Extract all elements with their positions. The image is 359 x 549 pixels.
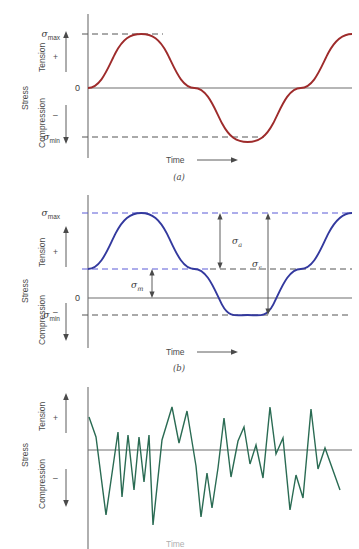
axis-label-tension-c: Tension bbox=[37, 401, 47, 431]
panel-b-repeated-stress-cycle: Stress Tension Compression + – σmax σmin… bbox=[0, 185, 359, 375]
svg-text:σmax: σmax bbox=[42, 208, 61, 220]
panel-b-svg: Stress Tension Compression + – σmax σmin… bbox=[0, 185, 359, 375]
tension-arrow-up-icon-b bbox=[63, 226, 69, 267]
tension-arrow-up-icon-c bbox=[63, 393, 69, 433]
time-arrow-icon-b bbox=[197, 349, 238, 355]
tension-arrow-up-icon-a bbox=[63, 31, 69, 72]
axis-label-stress-b: Stress bbox=[20, 279, 30, 303]
stress-curve-c bbox=[89, 407, 340, 525]
sign-minus-c: – bbox=[53, 473, 58, 483]
svg-text:σa: σa bbox=[232, 236, 242, 249]
sign-minus-a: – bbox=[53, 110, 58, 120]
panel-c-svg: Stress Tension Compression + – Time bbox=[0, 375, 359, 549]
time-label-a: Time bbox=[166, 155, 185, 165]
panel-a-svg: Stress Tension Compression + – σmax σmin… bbox=[0, 0, 359, 185]
axis-label-compression-c: Compression bbox=[37, 459, 47, 509]
sigma-a-dimension-arrow bbox=[217, 213, 222, 269]
axis-label-stress-a: Stress bbox=[20, 86, 30, 110]
sigma-min-label-a: σmin bbox=[43, 132, 60, 144]
zero-label-b: 0 bbox=[75, 293, 80, 303]
sigma-r-label: σr bbox=[252, 259, 262, 272]
svg-text:σmin: σmin bbox=[43, 310, 60, 322]
sigma-m-dimension-arrow bbox=[149, 269, 154, 298]
svg-text:σmax: σmax bbox=[42, 29, 61, 41]
sigma-min-label-b: σmin bbox=[43, 310, 60, 322]
time-label-b: Time bbox=[166, 347, 185, 357]
sigma-m-label: σm bbox=[131, 280, 143, 293]
time-label-c: Time bbox=[166, 539, 185, 549]
sign-plus-a: + bbox=[53, 52, 58, 62]
compression-arrow-down-icon-b bbox=[63, 303, 69, 341]
compression-arrow-down-icon-a bbox=[63, 105, 69, 144]
sign-plus-c: + bbox=[53, 413, 58, 423]
sigma-a-label: σa bbox=[232, 236, 242, 249]
sign-plus-b: + bbox=[53, 247, 58, 257]
axis-label-tension-b: Tension bbox=[37, 237, 47, 267]
axis-label-stress-c: Stress bbox=[20, 443, 30, 467]
time-arrow-icon-a bbox=[197, 157, 238, 163]
panel-caption-b: (b) bbox=[173, 363, 185, 373]
sigma-max-label-a: σmax bbox=[42, 29, 61, 41]
compression-arrow-down-icon-c bbox=[63, 469, 69, 507]
sigma-r-dimension-arrow bbox=[265, 213, 270, 315]
svg-text:σr: σr bbox=[252, 259, 262, 272]
panel-caption-a: (a) bbox=[173, 172, 185, 182]
sigma-max-label-b: σmax bbox=[42, 208, 61, 220]
panel-c-random-stress-cycle: Stress Tension Compression + – Time bbox=[0, 375, 359, 549]
svg-text:σm: σm bbox=[131, 280, 143, 293]
axis-label-tension-a: Tension bbox=[37, 42, 47, 72]
svg-text:σmin: σmin bbox=[43, 132, 60, 144]
zero-label-a: 0 bbox=[75, 83, 80, 93]
panel-a-reversed-stress-cycle: Stress Tension Compression + – σmax σmin… bbox=[0, 0, 359, 185]
